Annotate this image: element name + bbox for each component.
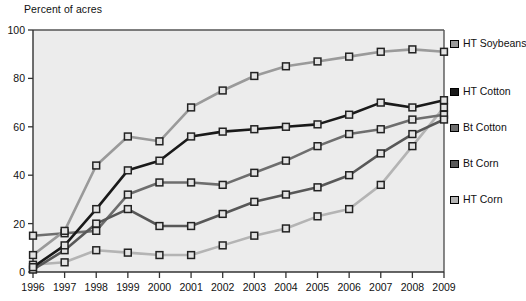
data-point: [124, 206, 131, 213]
data-point: [93, 220, 100, 227]
data-point: [251, 169, 258, 176]
data-point: [156, 138, 163, 145]
data-point: [156, 179, 163, 186]
x-tick-label: 1998: [85, 281, 109, 293]
legend-item-ht-corn[interactable]: HT Corn: [450, 194, 502, 206]
data-point: [409, 104, 416, 111]
data-point: [314, 58, 321, 65]
x-tick-label: 2007: [369, 281, 393, 293]
data-point: [61, 259, 68, 266]
data-point: [283, 157, 290, 164]
data-point: [346, 172, 353, 179]
data-point: [314, 184, 321, 191]
data-point: [251, 73, 258, 80]
data-point: [61, 227, 68, 234]
legend-swatch-icon: [450, 196, 459, 204]
data-point: [219, 181, 226, 188]
data-point: [346, 131, 353, 138]
data-point: [219, 242, 226, 249]
data-point: [156, 157, 163, 164]
y-tick-label: 100: [7, 24, 25, 36]
data-point: [30, 252, 37, 259]
data-point: [188, 223, 195, 230]
data-point: [156, 252, 163, 259]
data-point: [93, 206, 100, 213]
y-tick-label: 20: [13, 218, 25, 230]
data-point: [377, 99, 384, 106]
data-point: [251, 126, 258, 133]
x-tick-label: 1996: [21, 281, 45, 293]
legend-swatch-icon: [450, 40, 459, 48]
legend-swatch-icon: [450, 160, 459, 168]
data-point: [283, 225, 290, 232]
y-tick-label: 80: [13, 72, 25, 84]
data-point: [441, 116, 448, 123]
data-point: [314, 121, 321, 128]
x-tick-label: 2003: [243, 281, 267, 293]
x-tick-label: 2000: [148, 281, 172, 293]
legend-swatch-icon: [450, 124, 459, 132]
data-point: [377, 126, 384, 133]
y-tick-label: 40: [13, 169, 25, 181]
data-point: [409, 116, 416, 123]
data-point: [409, 131, 416, 138]
x-tick-label: 2001: [179, 281, 203, 293]
data-point: [188, 104, 195, 111]
data-point: [441, 48, 448, 55]
data-point: [30, 232, 37, 239]
data-point: [283, 123, 290, 130]
x-tick-label: 1997: [53, 281, 77, 293]
data-point: [124, 249, 131, 256]
x-tick-label: 2009: [432, 281, 456, 293]
data-point: [188, 133, 195, 140]
legend-item-label: HT Soybeans: [463, 38, 526, 50]
data-point: [377, 181, 384, 188]
x-tick-label: 2008: [401, 281, 425, 293]
data-point: [124, 167, 131, 174]
data-point: [124, 191, 131, 198]
data-point: [377, 150, 384, 157]
data-point: [188, 252, 195, 259]
legend-item-bt-cotton[interactable]: Bt Cotton: [450, 122, 507, 134]
data-point: [188, 179, 195, 186]
data-point: [219, 211, 226, 218]
data-point: [251, 232, 258, 239]
data-point: [30, 264, 37, 271]
legend-item-ht-cotton[interactable]: HT Cotton: [450, 86, 511, 98]
x-tick-label: 2006: [337, 281, 361, 293]
y-tick-label: 0: [19, 266, 25, 278]
x-tick-label: 2002: [211, 281, 235, 293]
data-point: [93, 162, 100, 169]
data-point: [409, 46, 416, 53]
y-tick-label: 60: [13, 121, 25, 133]
data-point: [346, 206, 353, 213]
data-point: [346, 53, 353, 60]
legend-item-bt-corn[interactable]: Bt Corn: [450, 158, 499, 170]
legend-swatch-icon: [450, 88, 459, 96]
data-point: [124, 133, 131, 140]
data-point: [61, 242, 68, 249]
chart-container: Percent of acres 02040608010019961997199…: [0, 0, 526, 301]
data-point: [93, 247, 100, 254]
data-point: [377, 48, 384, 55]
data-point: [219, 87, 226, 94]
data-point: [441, 104, 448, 111]
x-tick-label: 2004: [274, 281, 298, 293]
legend-item-label: Bt Corn: [463, 158, 499, 170]
x-tick-label: 2005: [306, 281, 330, 293]
data-point: [314, 143, 321, 150]
data-point: [441, 97, 448, 104]
legend-item-label: HT Cotton: [463, 86, 511, 98]
data-point: [409, 143, 416, 150]
data-point: [314, 213, 321, 220]
legend-item-label: HT Corn: [463, 194, 502, 206]
data-point: [251, 198, 258, 205]
legend-item-ht-soybeans[interactable]: HT Soybeans: [450, 38, 526, 50]
data-point: [283, 191, 290, 198]
x-tick-label: 1999: [116, 281, 140, 293]
data-point: [93, 227, 100, 234]
chart-plot-area: 0204060801001996199719981999200020012002…: [0, 0, 526, 301]
data-point: [283, 63, 290, 70]
data-point: [219, 128, 226, 135]
data-point: [346, 111, 353, 118]
